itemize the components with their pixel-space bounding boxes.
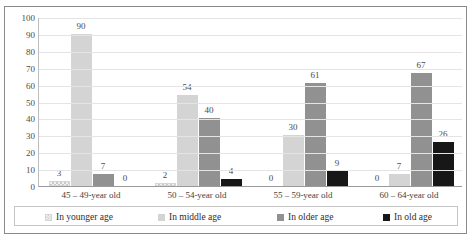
y-axis-tick-label: 100	[5, 14, 35, 23]
x-axis-category-label: 60 – 64-year old	[356, 190, 462, 200]
y-axis-tick-label: 80	[5, 48, 35, 57]
bar-value-label: 54	[171, 83, 204, 92]
gridline	[39, 136, 462, 137]
x-axis-category-label: 45 – 49-year old	[38, 190, 144, 200]
gridline	[39, 119, 462, 120]
bar	[433, 142, 454, 186]
legend-swatch-icon	[277, 214, 284, 221]
legend-item[interactable]: In younger age	[45, 211, 113, 223]
y-axis: 1009080706050403020100	[5, 7, 35, 187]
legend-swatch-icon	[45, 214, 52, 221]
bar	[327, 171, 348, 186]
bar	[389, 174, 410, 186]
y-axis-tick-label: 30	[5, 132, 35, 141]
legend-item[interactable]: In old age	[383, 211, 432, 223]
legend-item-label: In older age	[288, 212, 333, 222]
legend-item-label: In younger age	[56, 212, 113, 222]
bar	[221, 179, 242, 186]
plot-wrapper: 1009080706050403020100 39070254404030619…	[5, 7, 468, 187]
gridline	[39, 35, 462, 36]
legend-item[interactable]: In middle age	[158, 211, 221, 223]
y-axis-tick-label: 90	[5, 31, 35, 40]
bar-value-label: 4	[215, 167, 248, 176]
gridline	[39, 103, 462, 104]
bar-value-label: 40	[193, 106, 226, 115]
y-axis-tick-label: 0	[5, 183, 35, 192]
y-axis-tick-label: 40	[5, 115, 35, 124]
chart-frame: 1009080706050403020100 39070254404030619…	[4, 6, 467, 234]
y-axis-tick-label: 60	[5, 82, 35, 91]
gridline	[39, 69, 462, 70]
bar	[155, 183, 176, 186]
x-axis-category-label: 55 – 59-year old	[250, 190, 356, 200]
legend-swatch-icon	[383, 214, 390, 221]
bar	[49, 181, 70, 186]
gridline	[39, 170, 462, 171]
legend-item-label: In old age	[394, 212, 432, 222]
chart-legend: In younger ageIn middle ageIn older ageI…	[14, 206, 458, 226]
gridline	[39, 153, 462, 154]
gridline	[39, 52, 462, 53]
legend-swatch-icon	[158, 214, 165, 221]
plot-area: 39070254404030619076726	[38, 18, 462, 187]
gridline	[39, 86, 462, 87]
y-axis-tick-label: 70	[5, 65, 35, 74]
bar	[283, 135, 304, 186]
x-axis-category-label: 50 – 54-year old	[144, 190, 250, 200]
y-axis-tick-label: 50	[5, 99, 35, 108]
bar-value-label: 9	[321, 159, 354, 168]
bar-value-label: 26	[427, 130, 460, 139]
bar-value-label: 61	[299, 71, 332, 80]
gridline	[39, 18, 462, 19]
y-axis-tick-label: 10	[5, 166, 35, 175]
legend-item[interactable]: In older age	[277, 211, 333, 223]
legend-item-label: In middle age	[169, 212, 221, 222]
bar-value-label: 0	[109, 174, 142, 183]
y-axis-tick-label: 20	[5, 149, 35, 158]
bar-value-label: 90	[65, 22, 98, 31]
